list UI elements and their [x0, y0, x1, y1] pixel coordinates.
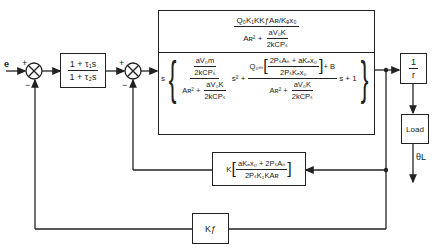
feedback-gain-label: Kƒ: [205, 224, 216, 234]
s-plus-one: s + 1: [339, 74, 357, 83]
s-squared-term: s² +: [232, 74, 246, 83]
term1-num-num: aV₀m: [194, 56, 217, 67]
plant-transfer-function-block: Q₀K₁KKƒAʀ/Kₑx₀ Aʀ² + aV₀K2kCPₛ s { aV₀m2…: [158, 10, 375, 135]
gear-ratio-num: 1: [409, 57, 418, 69]
lead-lag-denominator: 1 + τ₂s: [68, 71, 99, 82]
term2-flow-gain: Q₀ₘ: [250, 62, 264, 71]
term2-inner-num: 2PₛAₙ + aKₑx₀: [268, 56, 319, 67]
term2-den-frac-num: aV₀K: [292, 80, 313, 91]
gear-ratio-den: r: [410, 69, 417, 80]
term2-damping-B: + B: [323, 62, 334, 71]
plant-gain-den-area: Aʀ² +: [243, 34, 262, 43]
plant-gain-den-frac-num: aV₀K: [267, 28, 288, 39]
plant-characteristic-polynomial: s { aV₀m2kCPₛ Aʀ² + aV₀K2kCPₛ s² + Q₀ₘ […: [161, 55, 372, 101]
term2-den-frac-den: 2kCPₛ: [290, 91, 315, 101]
term1-den-area: Aʀ² +: [182, 86, 200, 95]
feedback-transducer-block: Kƒ: [192, 213, 229, 244]
right-brace: }: [361, 55, 369, 101]
term2-inner-den: 2PₛKₑx₀: [278, 67, 309, 77]
mid-feedback-den: 2PₛK₁KAʀ: [243, 170, 281, 180]
load-block: Load: [401, 114, 429, 144]
sum2-minus-sign: −: [122, 80, 127, 90]
pressure-feedback-block: K [ aKₑx₀ + 2PₛAₙ 2PₛK₁KAʀ ]: [212, 152, 306, 186]
input-label: e: [4, 59, 9, 69]
mid-feedback-num: aKₑx₀ + 2PₛAₙ: [236, 159, 287, 170]
load-label: Load: [406, 125, 424, 134]
lead-lag-compensator-block: 1 + τ₁s 1 + τ₂s: [60, 53, 106, 88]
lead-lag-numerator: 1 + τ₁s: [68, 59, 98, 71]
term1-num-den: 2kCPₛ: [192, 67, 217, 77]
left-brace: {: [169, 55, 177, 101]
output-theta-label: θL: [416, 152, 426, 162]
sum1-plus-sign: +: [22, 58, 27, 68]
plant-gain-numerator: Q₀K₁KKƒAʀ/Kₑx₀: [234, 16, 298, 27]
term2-den-area: Aʀ² +: [270, 86, 288, 95]
sum2-plus-sign: +: [119, 58, 124, 68]
plant-gain-den-frac-den: 2kCPₛ: [265, 39, 290, 49]
term1-den-frac-den: 2kCPₛ: [202, 91, 227, 101]
gear-ratio-block: 1 r: [400, 53, 427, 84]
s-prefix: s: [161, 74, 165, 83]
sum1-minus-sign: −: [25, 80, 30, 90]
term1-den-frac-num: aV₀K: [204, 80, 225, 91]
